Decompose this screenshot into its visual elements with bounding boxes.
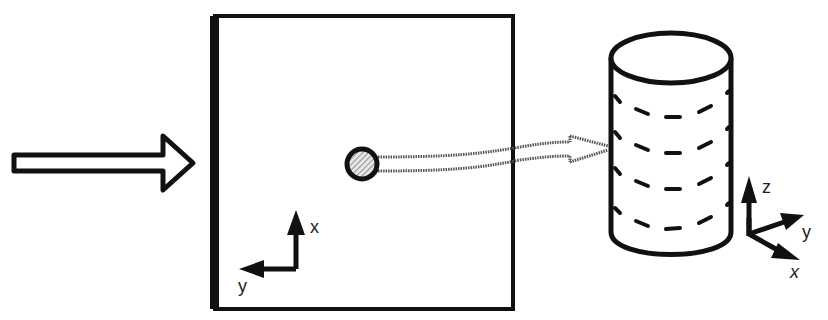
plate-axis-x-label: x xyxy=(310,217,319,237)
plate-axis-y-label: y xyxy=(238,276,247,296)
cylinder-axes-icon: z y x xyxy=(741,176,811,282)
probe-icon xyxy=(347,149,377,179)
cylinder-axis-z-label: z xyxy=(762,177,771,197)
diagram-canvas: x y z y x xyxy=(0,0,828,320)
cylinder-axis-x-label: x xyxy=(789,262,800,282)
cylinder-axis-y-label: y xyxy=(802,222,811,242)
flow-arrow-icon xyxy=(14,136,193,190)
cylinder-sample xyxy=(611,33,731,255)
